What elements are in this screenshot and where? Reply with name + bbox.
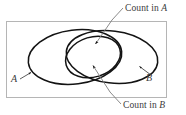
leader-line-set-a <box>20 73 31 80</box>
leader-line-count-in-b <box>93 66 121 105</box>
set-b-label: B <box>146 73 152 83</box>
set-a-label: A <box>11 74 17 84</box>
intersection-ellipse <box>60 30 125 85</box>
venn-diagram-canvas <box>0 0 186 115</box>
set-a-ellipse <box>25 24 125 89</box>
callout-a-set-letter: A <box>161 3 167 13</box>
callout-label-count-in-b: Count in B <box>123 101 165 111</box>
callout-b-prefix: Count in <box>123 100 159 110</box>
callout-label-count-in-a: Count in A <box>125 4 167 14</box>
callout-b-set-letter: B <box>159 100 165 110</box>
venn-diagram-figure: Count in A Count in B A B <box>0 0 186 115</box>
callout-a-prefix: Count in <box>125 3 161 13</box>
